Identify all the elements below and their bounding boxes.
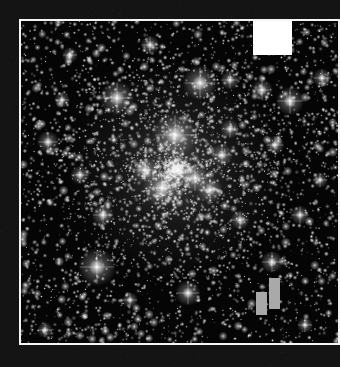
image-frame [19,19,340,345]
star-field [21,21,338,343]
marker-square [253,21,292,55]
gray-bar-short [256,292,267,315]
gray-bar-tall [269,278,280,309]
